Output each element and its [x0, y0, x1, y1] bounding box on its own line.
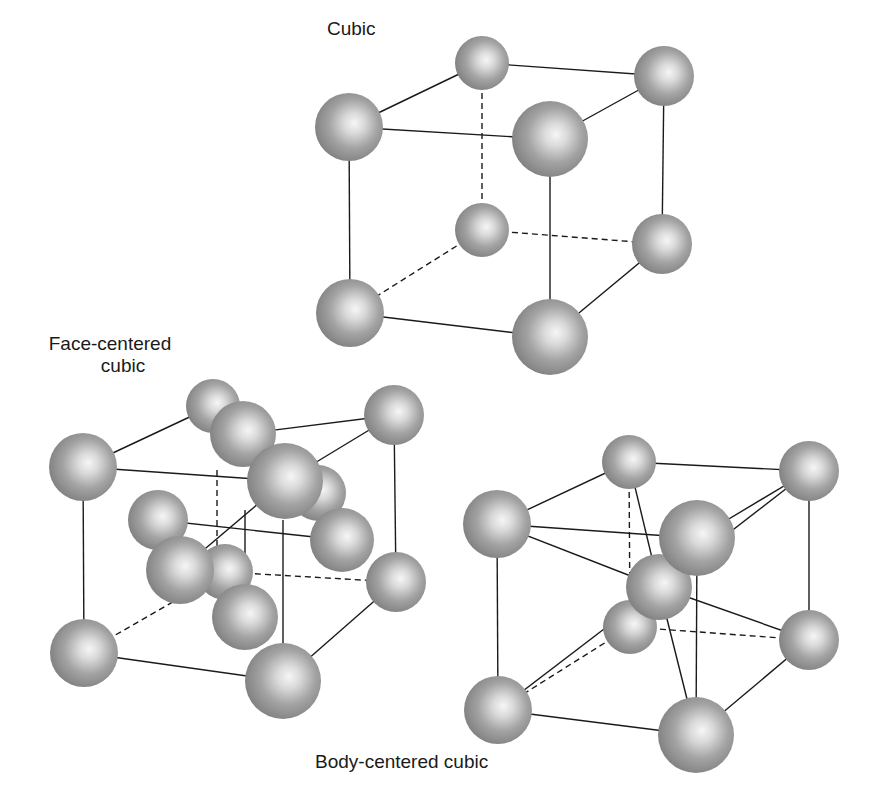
atom-sphere-f_front [146, 536, 214, 604]
crystal-lattice-diagram: Cubic Face-centered cubic Body-centered … [0, 0, 874, 798]
atom-sphere-bbl [455, 203, 509, 257]
atom-sphere-f_bottom [212, 584, 278, 650]
fcc-atoms [49, 379, 426, 719]
atom-sphere-bfl [316, 279, 384, 347]
cubic-label: Cubic [327, 18, 376, 40]
bcc-atoms [463, 435, 839, 773]
atom-sphere-bfr [245, 643, 321, 719]
atom-sphere-f_right [310, 508, 374, 572]
fcc-label-line2: cubic [40, 355, 206, 377]
atom-sphere-tbr [634, 46, 694, 106]
atom-sphere-bbr [366, 552, 426, 612]
atom-sphere-bbr [632, 214, 692, 274]
atom-sphere-tbr [779, 441, 839, 501]
face-centered-cubic-lattice [49, 379, 426, 719]
atom-sphere-tfr [512, 101, 588, 177]
atom-sphere-bfr [658, 697, 734, 773]
atom-sphere-tfl [315, 93, 383, 161]
atom-sphere-bfr [512, 299, 588, 375]
atom-sphere-tbl [455, 36, 509, 90]
atom-sphere-tfr [659, 500, 735, 576]
cubic-bonds [349, 63, 664, 337]
body-centered-cubic-lattice [463, 435, 839, 773]
cubic-lattice [315, 36, 694, 375]
lattice-canvas [0, 0, 874, 798]
atom-sphere-bfl [50, 619, 118, 687]
fcc-label-line1: Face-centered [40, 333, 180, 355]
atom-sphere-tfr [247, 443, 323, 519]
bcc-label: Body-centered cubic [315, 751, 488, 773]
atom-sphere-tfl [49, 433, 117, 501]
atom-sphere-bfl [464, 676, 532, 744]
atom-sphere-tfl [463, 490, 531, 558]
atom-sphere-tbr [364, 385, 424, 445]
atom-sphere-bbr [779, 610, 839, 670]
atom-sphere-tbl [602, 435, 656, 489]
cubic-atoms [315, 36, 694, 375]
